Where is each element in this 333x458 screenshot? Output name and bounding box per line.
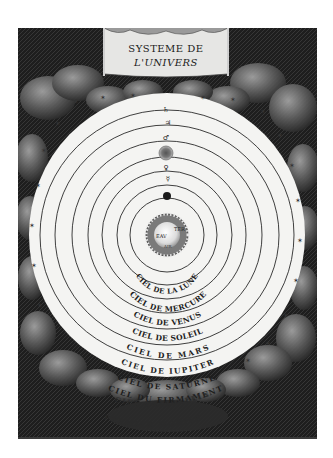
svg-text:✶: ✶: [297, 237, 303, 245]
moon-icon: [163, 192, 171, 200]
mars-icon: ♂: [163, 134, 169, 142]
cosmos-engraving: ✶✶✶ ✶✶✶ ✶✶✶ ✶✶✶ ✶✶✶ ✶✶✶ ✶✶ TER EAV AIR: [18, 28, 317, 439]
svg-text:✶: ✶: [245, 357, 251, 365]
svg-text:✶: ✶: [200, 94, 206, 102]
saturn-icon: ♄: [163, 106, 169, 114]
earth-label-ter: TER: [174, 226, 185, 232]
svg-text:✶: ✶: [230, 96, 236, 104]
svg-text:✶: ✶: [35, 182, 41, 190]
svg-text:✶: ✶: [277, 132, 283, 140]
jupiter-icon: ♃: [165, 119, 171, 127]
sun-icon: [159, 146, 173, 160]
svg-text:✶: ✶: [283, 312, 289, 320]
mercury-icon: ☿: [166, 175, 170, 183]
svg-text:✶: ✶: [130, 92, 136, 100]
svg-text:✶: ✶: [289, 162, 295, 170]
engraving-frame: ✶✶✶ ✶✶✶ ✶✶✶ ✶✶✶ ✶✶✶ ✶✶✶ ✶✶ TER EAV AIR: [18, 28, 317, 439]
frame-bottom-edge: [18, 437, 317, 439]
svg-text:✶: ✶: [37, 302, 43, 310]
earth: TER EAV AIR: [146, 214, 188, 256]
title-line-2: L'UNIVERS: [133, 57, 198, 68]
title-banner: SYSTEME DE L'UNIVERS: [104, 28, 228, 77]
svg-text:✶: ✶: [55, 120, 61, 128]
svg-text:✶: ✶: [260, 108, 266, 116]
title-line-1: SYSTEME DE: [128, 43, 203, 54]
svg-text:✶: ✶: [31, 262, 37, 270]
svg-text:✶: ✶: [73, 98, 79, 106]
svg-text:✶: ✶: [29, 222, 35, 230]
svg-text:✶: ✶: [295, 197, 301, 205]
earth-label-eav: EAV: [156, 233, 167, 239]
svg-text:✶: ✶: [265, 340, 271, 348]
svg-text:✶: ✶: [41, 147, 47, 155]
svg-text:✶: ✶: [100, 94, 106, 102]
earth-label-air: AIR: [163, 244, 172, 249]
venus-icon: ♀: [163, 164, 168, 172]
svg-text:✶: ✶: [293, 277, 299, 285]
